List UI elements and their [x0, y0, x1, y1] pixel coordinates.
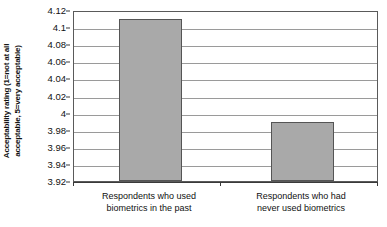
- x-axis-label-category-2: Respondents who had never used biometric…: [216, 190, 386, 214]
- y-tick-mark: [66, 113, 70, 114]
- y-tick-mark: [66, 79, 70, 80]
- x-tick-mark: [377, 182, 378, 186]
- y-tick-mark: [66, 28, 70, 29]
- y-tick-label: 4.1: [53, 23, 66, 33]
- y-tick-mark: [66, 182, 70, 183]
- x-axis-line: [73, 182, 378, 183]
- y-tick-label: 4.08: [48, 40, 67, 50]
- x-label-line-2: biometrics in the past: [64, 202, 234, 214]
- y-tick-mark: [66, 11, 70, 12]
- y-tick-mark: [66, 147, 70, 148]
- y-tick-label: 3.92: [48, 177, 67, 187]
- x-label-line-2: never used biometrics: [216, 202, 386, 214]
- plot-area: [73, 11, 378, 182]
- y-tick-label: 4.04: [48, 74, 67, 84]
- y-tick-mark: [66, 96, 70, 97]
- x-label-line-1: Respondents who had: [216, 190, 386, 202]
- y-axis-title-line-1: Acceptability rating (1=not at all: [1, 13, 12, 189]
- bar-respondents-never-used-biometrics[interactable]: [271, 122, 334, 181]
- bar-chart: Acceptability rating (1=not at all accep…: [0, 0, 387, 227]
- y-tick-label: 4.06: [48, 57, 67, 67]
- y-tick-mark: [66, 45, 70, 46]
- x-tick-mark: [220, 182, 221, 186]
- y-tick-mark: [66, 62, 70, 63]
- y-axis-title: Acceptability rating (1=not at all accep…: [1, 13, 27, 189]
- y-tick-label: 3.96: [48, 143, 67, 153]
- y-tick-label: 3.94: [48, 160, 67, 170]
- y-tick-label: 4.12: [48, 6, 67, 16]
- x-label-line-1: Respondents who used: [64, 190, 234, 202]
- y-axis-title-line-2: acceptable, 5=very acceptable): [12, 13, 23, 189]
- x-axis-label-category-1: Respondents who used biometrics in the p…: [64, 190, 234, 214]
- y-tick-label: 3.98: [48, 126, 67, 136]
- bar-respondents-used-biometrics[interactable]: [119, 19, 182, 181]
- y-axis-tick-labels: 4.12 4.1 4.08 4.06 4.04 4.02 4 3.98 3.96…: [26, 11, 70, 182]
- x-tick-mark: [73, 182, 74, 186]
- y-tick-mark: [66, 130, 70, 131]
- y-tick-mark: [66, 164, 70, 165]
- y-tick-label: 4.02: [48, 92, 67, 102]
